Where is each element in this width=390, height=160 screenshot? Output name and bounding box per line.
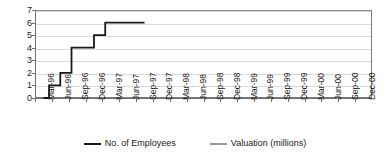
x-tick — [204, 98, 205, 102]
legend-label: No. of Employees — [105, 139, 176, 148]
x-tick — [187, 98, 188, 102]
x-tick — [220, 98, 221, 102]
x-tick — [288, 98, 289, 102]
legend-swatch-icon — [210, 143, 227, 145]
y-axis-label: 1 — [27, 81, 32, 90]
x-tick — [153, 98, 154, 102]
x-tick — [237, 98, 238, 102]
y-axis-label: 0 — [27, 94, 32, 103]
legend-item[interactable]: Valuation (millions) — [210, 139, 306, 148]
legend-item[interactable]: No. of Employees — [84, 139, 176, 148]
x-tick — [305, 98, 306, 102]
x-tick — [119, 98, 120, 102]
legend-swatch-icon — [84, 143, 101, 145]
x-tick — [52, 98, 53, 102]
x-tick — [355, 98, 356, 102]
series-lines — [35, 10, 372, 98]
y-axis-label: 4 — [27, 44, 32, 53]
legend-label: Valuation (millions) — [231, 139, 306, 148]
employee-growth-chart: 01234567 Mar-96Jun-96Sep-96Dec-96Mar-97J… — [0, 0, 390, 160]
x-tick — [170, 98, 171, 102]
x-tick — [136, 98, 137, 102]
x-tick — [69, 98, 70, 102]
x-tick — [338, 98, 339, 102]
y-axis-label: 5 — [27, 31, 32, 40]
x-tick — [321, 98, 322, 102]
series-line — [43, 23, 144, 98]
chart-legend: No. of EmployeesValuation (millions) — [0, 139, 390, 148]
y-axis-label: 7 — [27, 6, 32, 15]
y-axis-label: 2 — [27, 69, 32, 78]
x-tick — [35, 98, 36, 102]
x-tick — [86, 98, 87, 102]
y-axis-label: 6 — [27, 19, 32, 28]
x-tick — [254, 98, 255, 102]
x-tick — [271, 98, 272, 102]
x-tick — [102, 98, 103, 102]
y-axis-label: 3 — [27, 56, 32, 65]
